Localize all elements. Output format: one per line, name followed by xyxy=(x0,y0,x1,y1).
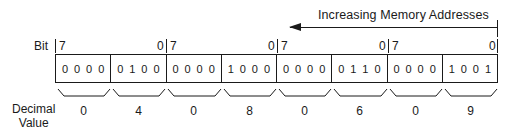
bit-high-index: 7 xyxy=(170,39,177,53)
bit-value: 1 xyxy=(228,63,234,75)
bit-value: 0 xyxy=(153,63,159,75)
bit-value: 1 xyxy=(362,63,368,75)
bit-value: 0 xyxy=(338,63,344,75)
bit-high-index: 7 xyxy=(392,39,399,53)
bit-value: 0 xyxy=(252,63,258,75)
bit-value: 0 xyxy=(62,63,68,75)
bit-value: 0 xyxy=(418,63,424,75)
bit-value: 0 xyxy=(461,63,467,75)
bit-value: 1 xyxy=(129,63,135,75)
bit-low-index: 0 xyxy=(489,39,496,53)
nibble-brace-group xyxy=(55,88,498,100)
bit-high-index: 7 xyxy=(59,39,66,53)
bit-value: 0 xyxy=(141,63,147,75)
nibble-cell: 0110 xyxy=(332,55,387,82)
memory-direction-label: Increasing Memory Addresses xyxy=(318,8,489,22)
nibble-cell: 1001 xyxy=(443,55,497,82)
bit-value: 0 xyxy=(319,63,325,75)
decimal-value: 6 xyxy=(332,104,387,118)
byte-boundary-marker xyxy=(388,39,389,53)
arrow-origin-tick xyxy=(497,20,498,37)
bit-value: 0 xyxy=(406,63,412,75)
nibble-brace xyxy=(390,89,442,96)
nibble-brace xyxy=(168,89,221,96)
nibble-cell: 0000 xyxy=(167,55,222,82)
bit-value: 0 xyxy=(283,63,289,75)
decimal-value: 0 xyxy=(388,104,443,118)
bit-value: 1 xyxy=(485,63,491,75)
decimal-value: 9 xyxy=(443,104,498,118)
bit-value: 0 xyxy=(393,63,399,75)
nibble-cell: 0000 xyxy=(56,55,111,82)
memory-register: 0000 0100 0000 1000 0000 0110 0000 1001 xyxy=(55,54,498,83)
bit-value: 0 xyxy=(307,63,313,75)
decimal-value: 0 xyxy=(166,104,221,118)
bit-low-index: 0 xyxy=(157,39,164,53)
decimal-value: 0 xyxy=(56,104,111,118)
nibble-cell: 0100 xyxy=(111,55,166,82)
bit-value: 0 xyxy=(264,63,270,75)
bit-value: 0 xyxy=(98,63,104,75)
byte-boundary-marker xyxy=(497,39,498,53)
bit-value: 0 xyxy=(117,63,123,75)
bit-value: 0 xyxy=(374,63,380,75)
nibble-brace xyxy=(224,89,276,96)
bit-value: 0 xyxy=(172,63,178,75)
memory-direction-arrow-line xyxy=(290,27,498,28)
decimal-value: 8 xyxy=(222,104,277,118)
bit-value: 0 xyxy=(74,63,80,75)
nibble-cell: 1000 xyxy=(222,55,277,82)
arrow-left-icon xyxy=(289,23,301,31)
bit-value: 0 xyxy=(185,63,191,75)
decimal-value-label: Decimal Value xyxy=(12,102,55,130)
bit-low-index: 0 xyxy=(379,39,386,53)
bit-low-index: 0 xyxy=(268,39,275,53)
decimal-label-line2: Value xyxy=(12,116,55,130)
nibble-brace xyxy=(279,89,331,96)
decimal-value: 4 xyxy=(111,104,166,118)
bit-value: 0 xyxy=(240,63,246,75)
bit-value: 0 xyxy=(473,63,479,75)
byte-boundary-marker xyxy=(166,39,167,53)
bit-value: 1 xyxy=(449,63,455,75)
bit-high-index: 7 xyxy=(281,39,288,53)
byte-boundary-marker xyxy=(277,39,278,53)
nibble-brace xyxy=(445,89,497,96)
nibble-brace xyxy=(113,89,165,96)
bit-row-label: Bit xyxy=(34,39,48,53)
bit-value: 0 xyxy=(430,63,436,75)
byte-boundary-marker xyxy=(55,39,56,53)
bit-value: 1 xyxy=(350,63,356,75)
bit-value: 0 xyxy=(197,63,203,75)
nibble-brace xyxy=(334,89,387,96)
nibble-cell: 0000 xyxy=(277,55,332,82)
bit-value: 0 xyxy=(209,63,215,75)
bit-value: 0 xyxy=(86,63,92,75)
decimal-label-line1: Decimal xyxy=(12,102,55,116)
nibble-cell: 0000 xyxy=(388,55,443,82)
bit-value: 0 xyxy=(295,63,301,75)
nibble-brace xyxy=(58,89,110,96)
decimal-value: 0 xyxy=(277,104,332,118)
